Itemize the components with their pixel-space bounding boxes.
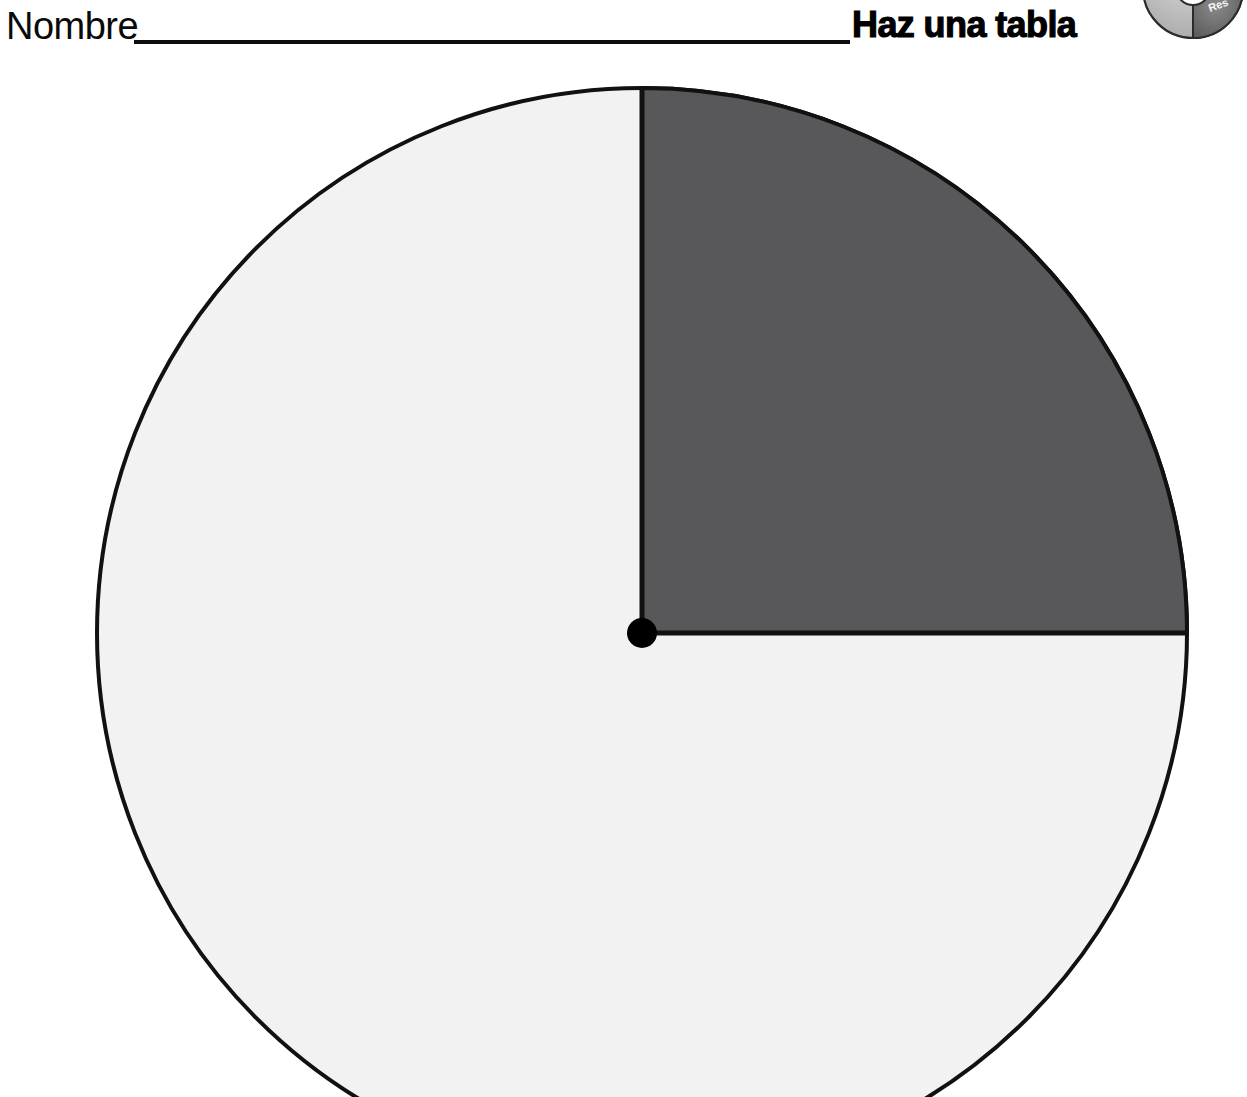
pie-slice-shaded xyxy=(642,88,1187,633)
circle-center-dot xyxy=(627,618,657,648)
